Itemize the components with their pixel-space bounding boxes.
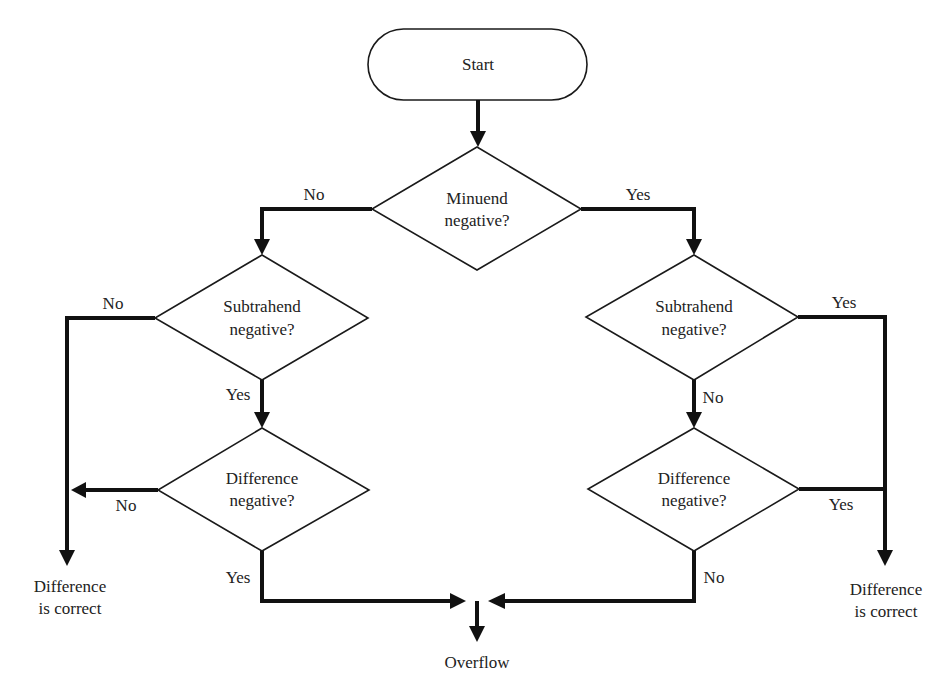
arrow-down-icon bbox=[254, 412, 270, 428]
left-difference-label-line2: negative? bbox=[229, 491, 294, 510]
decision-diamond-shape bbox=[588, 428, 799, 551]
left-subtrahend-decision: Subtrahend negative? bbox=[155, 255, 368, 380]
right-subtrahend-label-line2: negative? bbox=[661, 320, 726, 339]
connector-line bbox=[67, 318, 155, 552]
right-result-label-line1: Difference bbox=[850, 580, 922, 599]
left-subtrahend-label-line1: Subtrahend bbox=[223, 297, 301, 316]
right-difference-label-line1: Difference bbox=[658, 469, 730, 488]
left-difference-decision: Difference negative? bbox=[158, 428, 369, 551]
edge-minuend-yes: Yes bbox=[581, 185, 702, 255]
edge-right-difference-no: No bbox=[488, 551, 724, 609]
connector-line bbox=[262, 209, 372, 241]
edge-label-yes: Yes bbox=[626, 185, 651, 204]
edge-left-difference-yes: Yes bbox=[226, 551, 466, 609]
right-subtrahend-decision: Subtrahend negative? bbox=[586, 255, 798, 380]
edge-label-yes: Yes bbox=[226, 568, 251, 587]
arrow-down-icon bbox=[470, 131, 486, 147]
minuend-label-line2: negative? bbox=[444, 211, 509, 230]
arrow-down-icon bbox=[469, 626, 485, 642]
connector-line bbox=[262, 551, 452, 601]
right-difference-decision: Difference negative? bbox=[588, 428, 799, 551]
decision-diamond-shape bbox=[155, 255, 368, 380]
edge-label-yes: Yes bbox=[832, 293, 857, 312]
flowchart: Start Minuend negative? No Yes Subtrahen… bbox=[0, 0, 952, 686]
left-subtrahend-label-line2: negative? bbox=[229, 320, 294, 339]
edge-label-no: No bbox=[116, 496, 137, 515]
edge-label-yes: Yes bbox=[226, 385, 251, 404]
edge-minuend-no: No bbox=[254, 185, 372, 255]
arrow-down-icon bbox=[686, 239, 702, 255]
arrow-down-icon bbox=[877, 550, 893, 566]
right-difference-label-line2: negative? bbox=[661, 491, 726, 510]
arrow-left-icon bbox=[488, 593, 505, 609]
start-node: Start bbox=[368, 29, 587, 100]
edge-label-no: No bbox=[704, 568, 725, 587]
decision-diamond-shape bbox=[158, 428, 369, 551]
start-label: Start bbox=[462, 55, 494, 74]
edge-label-no: No bbox=[304, 185, 325, 204]
left-result-label-line1: Difference bbox=[34, 577, 106, 596]
overflow-node: Overflow bbox=[444, 601, 510, 672]
left-difference-label-line1: Difference bbox=[226, 469, 298, 488]
edge-right-subtrahend-yes: Yes bbox=[798, 293, 893, 566]
left-result-node: Difference is correct bbox=[34, 577, 106, 618]
right-result-node: Difference is correct bbox=[850, 580, 922, 621]
connector-line bbox=[798, 317, 885, 552]
edge-label-no: No bbox=[703, 388, 724, 407]
arrow-down-icon bbox=[59, 550, 75, 566]
arrow-down-icon bbox=[254, 239, 270, 255]
overflow-label: Overflow bbox=[444, 653, 510, 672]
edge-label-no: No bbox=[103, 294, 124, 313]
edge-start-to-minuend bbox=[470, 100, 486, 147]
minuend-decision: Minuend negative? bbox=[372, 147, 581, 270]
edge-left-subtrahend-no: No bbox=[59, 294, 155, 566]
edge-left-difference-no: No bbox=[71, 482, 158, 515]
arrow-left-icon bbox=[71, 482, 86, 498]
left-result-label-line2: is correct bbox=[39, 599, 102, 618]
arrow-right-icon bbox=[450, 593, 466, 609]
decision-diamond-shape bbox=[372, 147, 581, 270]
edge-right-difference-yes: Yes bbox=[799, 489, 885, 514]
edge-label-yes: Yes bbox=[829, 495, 854, 514]
minuend-label-line1: Minuend bbox=[446, 189, 508, 208]
edge-right-subtrahend-no: No bbox=[686, 380, 723, 428]
connector-line bbox=[503, 551, 694, 601]
connector-line bbox=[581, 209, 694, 241]
edge-left-subtrahend-yes: Yes bbox=[226, 380, 270, 428]
arrow-down-icon bbox=[686, 412, 702, 428]
right-subtrahend-label-line1: Subtrahend bbox=[655, 297, 733, 316]
decision-diamond-shape bbox=[586, 255, 798, 380]
right-result-label-line2: is correct bbox=[855, 602, 918, 621]
